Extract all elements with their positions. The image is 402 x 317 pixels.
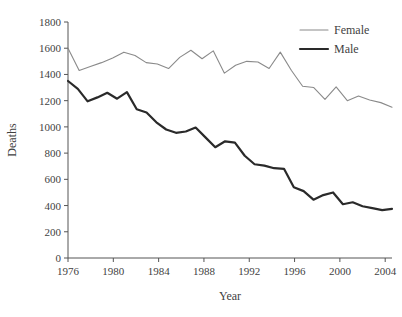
x-axis-tick-label: 1996: [284, 265, 307, 277]
line-chart-canvas: 0200400600800100012001400160018001976198…: [0, 0, 402, 317]
series-line-male: [68, 81, 392, 210]
y-axis-tick-label: 400: [45, 200, 62, 212]
y-axis-tick-label: 200: [45, 226, 62, 238]
chart-figure: 0200400600800100012001400160018001976198…: [0, 0, 402, 317]
y-axis-tick-label: 1600: [39, 42, 62, 54]
x-axis-tick-label: 2000: [329, 265, 352, 277]
legend-label-female: Female: [334, 23, 369, 37]
y-axis-tick-label: 1800: [39, 16, 62, 28]
legend-label-male: Male: [334, 42, 359, 56]
y-axis-tick-label: 800: [45, 147, 62, 159]
x-axis-tick-label: 1984: [148, 265, 171, 277]
x-axis-tick-label: 1992: [238, 265, 260, 277]
x-axis-title: Year: [219, 289, 241, 303]
y-axis-tick-label: 1200: [39, 95, 62, 107]
y-axis-title: Deaths: [5, 123, 19, 157]
x-axis-tick-label: 1980: [102, 265, 125, 277]
y-axis-tick-label: 0: [56, 252, 62, 264]
x-axis-tick-label: 2004: [374, 265, 397, 277]
x-axis-tick-label: 1976: [57, 265, 80, 277]
y-axis-tick-label: 1000: [39, 121, 62, 133]
y-axis-tick-label: 600: [45, 173, 62, 185]
x-axis-tick-label: 1988: [193, 265, 216, 277]
y-axis-tick-label: 1400: [39, 68, 62, 80]
